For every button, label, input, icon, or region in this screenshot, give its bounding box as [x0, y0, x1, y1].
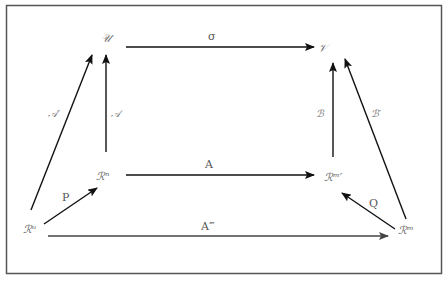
node-Rm-prime: ℛᵐ′: [324, 171, 343, 184]
node-Rm: ℛᵐ: [398, 224, 414, 237]
arrow-B-script-prime: [345, 59, 406, 219]
label-Q: Q: [369, 197, 378, 210]
label-P: P: [62, 191, 70, 204]
label-A-script-prime: 𝒜′: [48, 108, 61, 119]
node-U: 𝒰: [101, 32, 114, 45]
arrow-A-script-prime: [31, 55, 92, 210]
label-A-script: 𝒜: [111, 108, 124, 119]
label-A: A: [204, 158, 214, 171]
label-B-script-prime: ℬ′: [371, 108, 382, 119]
arrow-P: [44, 188, 97, 224]
node-Ru: ℛᵘ: [23, 223, 36, 236]
node-Rn: ℛⁿ: [96, 170, 109, 183]
commutative-diagram: 𝒰 𝒱 ℛⁿ ℛᵐ′ ℛᵘ ℛᵐ σ 𝒜 𝒜′ ℬ ℬ′ A P Q A‴: [0, 0, 445, 283]
label-A-triple-prime: A‴: [200, 220, 215, 233]
label-B-script: ℬ: [316, 108, 325, 119]
label-sigma: σ: [208, 30, 216, 43]
node-V: 𝒱: [318, 42, 331, 55]
